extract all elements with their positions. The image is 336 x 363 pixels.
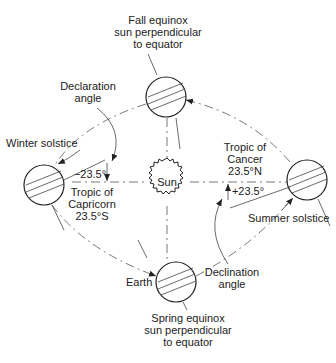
- winter-solstice-label: Winter solstice: [6, 137, 80, 164]
- svg-text:angle: angle: [219, 278, 246, 290]
- earth-fall: [146, 77, 186, 117]
- svg-text:Spring equinox: Spring equinox: [151, 312, 225, 324]
- earth-label: Earth: [126, 276, 152, 288]
- svg-text:to equator: to equator: [163, 336, 213, 348]
- svg-text:Fall equinox: Fall equinox: [128, 14, 188, 26]
- svg-text:23.5°N: 23.5°N: [228, 165, 262, 177]
- sun: Sun: [149, 158, 183, 194]
- svg-text:Winter solstice: Winter solstice: [6, 137, 78, 149]
- spring-equinox-label: Spring equinox sun perpendicular to equa…: [144, 302, 232, 348]
- earth-winter: [24, 165, 64, 205]
- fall-equinox-label: Fall equinox sun perpendicular to equato…: [114, 14, 202, 75]
- orbit-diagram: Sun Fall equinox sun perpendicular to eq…: [0, 0, 336, 363]
- svg-text:Capricorn: Capricorn: [68, 198, 116, 210]
- svg-text:angle: angle: [75, 92, 102, 104]
- svg-text:sun perpendicular: sun perpendicular: [114, 26, 202, 38]
- svg-text:Summer solstice: Summer solstice: [248, 212, 329, 224]
- svg-text:Declaration: Declaration: [60, 80, 116, 92]
- tropic-capricorn: −23.5° Tropic of Capricorn 23.5°S: [64, 160, 116, 222]
- svg-text:to equator: to equator: [133, 38, 183, 50]
- svg-text:−23.5°: −23.5°: [74, 168, 106, 180]
- svg-text:sun perpendicular: sun perpendicular: [144, 324, 232, 336]
- svg-text:Cancer: Cancer: [227, 153, 263, 165]
- earth-summer: [287, 160, 327, 200]
- svg-text:Declination: Declination: [205, 266, 259, 278]
- svg-text:Tropic of: Tropic of: [71, 186, 114, 198]
- svg-text:+23.5°: +23.5°: [232, 185, 264, 197]
- sun-label: Sun: [157, 176, 177, 188]
- earth-spring: [156, 262, 196, 302]
- svg-text:Tropic of: Tropic of: [224, 141, 267, 153]
- svg-text:23.5°S: 23.5°S: [75, 210, 108, 222]
